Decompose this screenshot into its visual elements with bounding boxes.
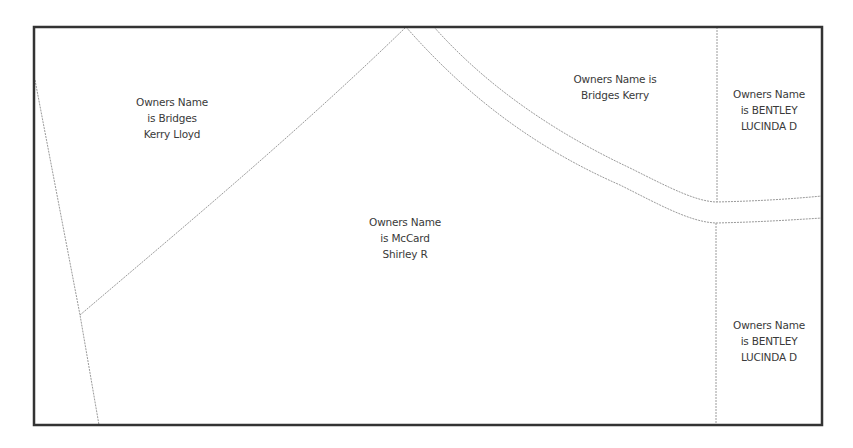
parcel-label-line: Owners Name [136, 94, 208, 110]
parcel-label-line: Owners Name [733, 317, 805, 333]
parcel-label-line: is BENTLEY [733, 333, 805, 349]
parcel-label-line: Bridges Kerry [574, 87, 657, 103]
parcel-label-line: Owners Name is [574, 71, 657, 87]
parcel-label-bentley-lucinda-south[interactable]: Owners Name is BENTLEY LUCINDA D [733, 317, 805, 365]
parcel-label-line: is McCard [369, 230, 441, 246]
parcel-label-line: is BENTLEY [733, 102, 805, 118]
parcel-map[interactable]: Owners Name is Bridges Kerry Lloyd Owner… [0, 0, 853, 448]
parcel-label-bridges-kerry-lloyd[interactable]: Owners Name is Bridges Kerry Lloyd [136, 94, 208, 142]
parcel-label-line: LUCINDA D [733, 349, 805, 365]
parcel-boundary-diagonal [80, 27, 406, 315]
parcel-label-bridges-kerry[interactable]: Owners Name is Bridges Kerry [574, 71, 657, 103]
parcel-boundary-west [35, 80, 99, 425]
parcel-label-line: is Bridges [136, 110, 208, 126]
parcel-label-line: LUCINDA D [733, 118, 805, 134]
parcel-label-line: Owners Name [369, 214, 441, 230]
parcel-label-line: Shirley R [369, 246, 441, 262]
parcel-label-mccard-shirley-r[interactable]: Owners Name is McCard Shirley R [369, 214, 441, 262]
parcel-label-line: Owners Name [733, 86, 805, 102]
parcel-label-line: Kerry Lloyd [136, 126, 208, 142]
parcel-label-bentley-lucinda-north[interactable]: Owners Name is BENTLEY LUCINDA D [733, 86, 805, 134]
